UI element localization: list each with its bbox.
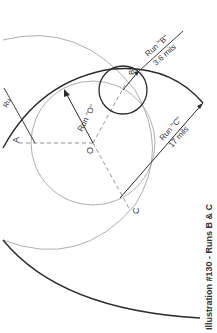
run-o-arrowhead [64, 89, 70, 97]
point-a-label: A [11, 137, 21, 143]
run-a-line [4, 88, 35, 143]
geometry-diagram: O A B C Run "O" Ru Run "B" 3.6 mils Run … [0, 0, 217, 333]
run-c-line [120, 103, 203, 198]
point-o-label: O [85, 147, 95, 154]
caption: Illustration #130 - Runs B & C [204, 203, 214, 330]
point-c-label: C [131, 207, 141, 214]
dashed-o-c [93, 143, 130, 210]
point-b-label: B [127, 70, 136, 75]
outer-dark-arc-lower [3, 240, 200, 318]
